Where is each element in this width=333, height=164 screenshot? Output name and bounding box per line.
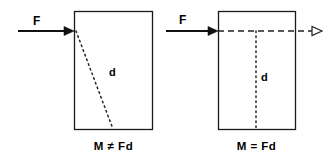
right-distance-label: d	[261, 71, 268, 83]
left-distance-label: d	[109, 66, 116, 78]
left-panel-caption: M ≠ Fd	[74, 140, 153, 152]
right-body-rectangle	[219, 12, 296, 130]
right-panel-caption: M = Fd	[218, 140, 295, 152]
right-force-label: F	[179, 13, 186, 27]
left-force-label: F	[33, 14, 40, 28]
right-force-arrowhead	[208, 27, 218, 36]
left-force-arrowhead	[64, 27, 74, 36]
left-panel-group	[18, 12, 153, 130]
right-line-of-action-open-arrowhead	[312, 27, 322, 36]
figure-root: F F d d M ≠ Fd M = Fd	[0, 0, 333, 164]
right-panel-group	[166, 12, 322, 130]
